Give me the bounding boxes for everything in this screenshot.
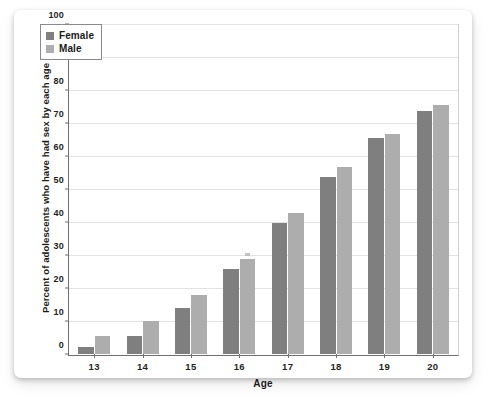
scan-artifact	[245, 253, 250, 256]
legend-label: Male	[59, 44, 82, 54]
x-tick-label-19: 19	[360, 361, 408, 372]
y-tick-label: 0	[59, 340, 64, 350]
chart-legend: FemaleMale	[40, 24, 102, 60]
bar-groups: 1314151617181920	[70, 26, 457, 354]
x-tick-label-15: 15	[167, 361, 215, 372]
plot-area: 0102030405060708090100 1314151617181920	[68, 24, 459, 356]
legend-item-male: Male	[46, 42, 94, 55]
gridline	[69, 24, 458, 25]
bar-female-age-14	[127, 336, 142, 354]
x-tick-label-13: 13	[70, 361, 118, 372]
y-tick-label: 60	[54, 142, 64, 152]
x-tick-mark	[384, 354, 385, 358]
y-tick-mark	[65, 189, 69, 190]
bar-female-age-16	[223, 269, 238, 354]
y-tick-mark	[65, 354, 69, 355]
bar-female-age-20	[417, 111, 432, 354]
bar-group-age-20: 20	[409, 26, 457, 354]
bar-female-age-18	[320, 177, 335, 354]
y-tick-label: 10	[54, 307, 64, 317]
x-tick-label-18: 18	[312, 361, 360, 372]
legend-swatch-icon	[46, 45, 54, 53]
x-tick-mark	[143, 354, 144, 358]
y-tick-label: 80	[54, 76, 64, 86]
bar-male-age-13	[95, 336, 110, 354]
bar-male-age-19	[385, 134, 400, 354]
bar-group-age-15: 15	[167, 26, 215, 354]
bar-male-age-15	[191, 295, 206, 354]
figure-card: Percent of adolescents who have had sex …	[14, 10, 472, 378]
legend-item-female: Female	[46, 29, 94, 42]
y-tick-mark	[65, 255, 69, 256]
x-tick-mark	[239, 354, 240, 358]
legend-label: Female	[59, 31, 94, 41]
x-tick-mark	[336, 354, 337, 358]
bar-male-age-14	[143, 321, 158, 354]
bar-male-age-20	[433, 105, 448, 354]
x-tick-mark	[433, 354, 434, 358]
bar-group-age-16: 16	[215, 26, 263, 354]
x-tick-label-20: 20	[409, 361, 457, 372]
bar-male-age-18	[337, 167, 352, 354]
bar-group-age-18: 18	[312, 26, 360, 354]
x-tick-mark	[191, 354, 192, 358]
bar-group-age-13: 13	[70, 26, 118, 354]
x-tick-label-14: 14	[118, 361, 166, 372]
y-tick-label: 100	[48, 10, 64, 20]
y-tick-mark	[65, 90, 69, 91]
y-tick-mark	[65, 288, 69, 289]
bar-female-age-15	[175, 308, 190, 354]
y-tick-label: 20	[54, 274, 64, 284]
y-tick-mark	[65, 321, 69, 322]
bar-female-age-17	[272, 223, 287, 354]
y-tick-label: 40	[54, 208, 64, 218]
bar-group-age-14: 14	[118, 26, 166, 354]
bar-female-age-19	[368, 138, 383, 354]
bar-group-age-17: 17	[264, 26, 312, 354]
y-tick-mark	[65, 156, 69, 157]
bar-male-age-16	[240, 259, 255, 354]
y-tick-label: 70	[54, 109, 64, 119]
legend-swatch-icon	[46, 32, 54, 40]
y-tick-mark	[65, 123, 69, 124]
y-tick-label: 30	[54, 241, 64, 251]
bar-group-age-19: 19	[360, 26, 408, 354]
x-tick-label-16: 16	[215, 361, 263, 372]
y-tick-label: 50	[54, 175, 64, 185]
x-tick-label-17: 17	[264, 361, 312, 372]
y-tick-mark	[65, 222, 69, 223]
x-axis-title: Age	[68, 378, 458, 389]
bar-male-age-17	[288, 213, 303, 354]
x-tick-mark	[288, 354, 289, 358]
y-axis-title: Percent of adolescents who have had sex …	[40, 38, 54, 338]
x-tick-mark	[94, 354, 95, 358]
bar-female-age-13	[78, 347, 93, 354]
